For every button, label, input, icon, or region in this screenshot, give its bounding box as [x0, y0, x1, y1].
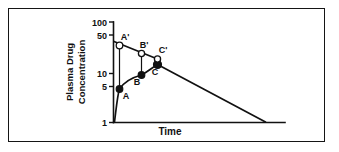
data-point-label-b: B [134, 77, 141, 87]
data-point-label-c: C [152, 67, 159, 77]
figure-root: 100 50 10 5 1 Plasma Drug Concentration … [0, 0, 339, 152]
data-point-label-a: A [123, 91, 130, 101]
concentration-curve [115, 65, 266, 123]
plot-area: 100 50 10 5 1 Plasma Drug Concentration … [0, 0, 339, 152]
data-point-label-a-prime: A' [121, 32, 130, 42]
data-point-c-prime [154, 56, 160, 62]
y-tick-label-1: 1 [102, 118, 107, 128]
data-point-label-b-prime: B' [140, 40, 149, 50]
y-axis-title-line2: Concentration [76, 40, 87, 105]
y-tick-label-50: 50 [97, 31, 107, 41]
data-point-a-prime [116, 42, 123, 49]
x-axis-title: Time [158, 126, 182, 137]
y-axis-title: Plasma Drug Concentration [64, 40, 87, 105]
y-axis-title-line1: Plasma Drug [64, 43, 75, 101]
data-point-label-c-prime: C' [159, 45, 168, 55]
y-tick-label-10: 10 [97, 69, 107, 79]
y-tick-label-5: 5 [102, 82, 107, 92]
y-tick-labels: 100 50 10 5 1 [92, 18, 107, 129]
y-tick-label-100: 100 [92, 18, 107, 28]
data-point-b-prime [138, 50, 144, 56]
